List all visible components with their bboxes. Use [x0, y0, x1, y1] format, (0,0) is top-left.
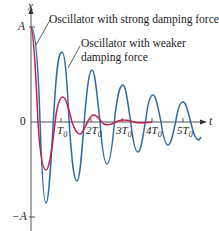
x-tick-5T0: 5T0: [177, 124, 193, 139]
damped-oscillation-plot: [0, 0, 219, 231]
x-tick-2T0: 2T0: [86, 124, 102, 139]
strong-leader-line: [36, 20, 50, 45]
y-tick-zero: 0: [20, 115, 26, 128]
x-tick-T0: T0: [57, 124, 67, 139]
weak-damping-label-line1: Oscillator with weaker: [81, 37, 186, 50]
strong-damping-label: Oscillator with strong damping force: [49, 13, 219, 26]
y-axis-label: x: [28, 0, 33, 13]
weak-damping-label-line2: damping force: [81, 51, 148, 64]
y-tick-minus-A: −A: [12, 210, 27, 223]
x-tick-4T0: 4T0: [146, 124, 162, 139]
t-axis-arrow-icon: [200, 120, 207, 125]
weak-leader-line: [68, 46, 80, 68]
y-tick-A: A: [18, 20, 25, 33]
x-tick-3T0: 3T0: [116, 124, 132, 139]
x-axis-label: t: [209, 115, 212, 128]
